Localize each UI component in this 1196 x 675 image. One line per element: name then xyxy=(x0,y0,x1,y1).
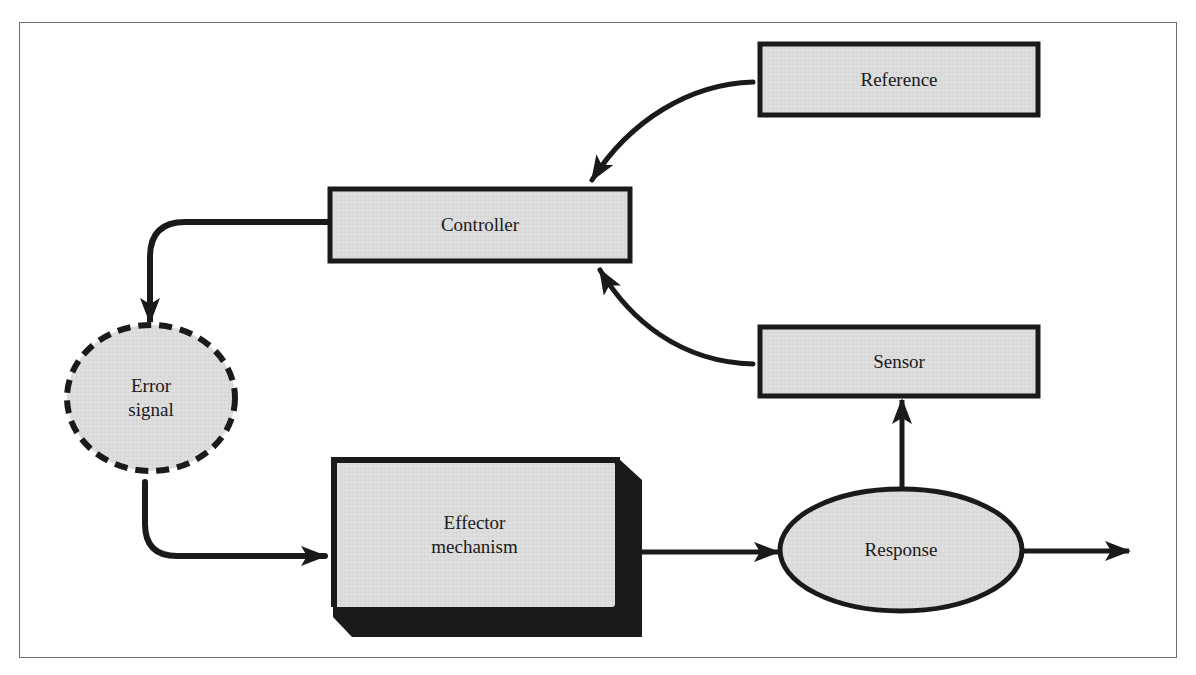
effector-line2: mechanism xyxy=(431,535,518,559)
sensor-label: Sensor xyxy=(760,327,1038,396)
sensor-text: Sensor xyxy=(873,350,925,374)
reference-text: Reference xyxy=(861,68,938,92)
effector-line1: Effector xyxy=(444,511,506,535)
error-signal-label: Error signal xyxy=(67,325,235,471)
response-text: Response xyxy=(865,538,938,562)
effector-label: Effector mechanism xyxy=(334,462,615,607)
arrow-reference-to-controller xyxy=(592,82,753,180)
error-signal-line1: Error xyxy=(131,374,171,398)
controller-text: Controller xyxy=(441,213,519,237)
arrow-error-signal-to-effector xyxy=(145,482,325,556)
reference-label: Reference xyxy=(760,44,1038,115)
arrow-controller-to-error-signal xyxy=(150,222,328,322)
error-signal-line2: signal xyxy=(128,398,173,422)
arrow-sensor-to-controller xyxy=(600,270,753,364)
controller-label: Controller xyxy=(330,189,630,261)
response-label: Response xyxy=(780,489,1022,611)
